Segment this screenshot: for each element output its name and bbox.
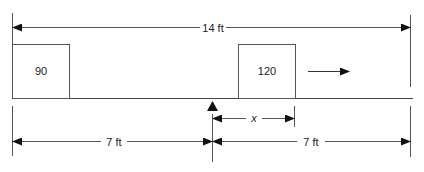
svg-text:120: 120: [258, 65, 276, 77]
left-half-dimension: 7 ft: [13, 136, 212, 148]
fulcrum-triangle-icon: [207, 101, 218, 111]
x-dimension: x: [213, 112, 294, 124]
mass-box-90: 90: [13, 45, 70, 99]
left-half-label: 7 ft: [106, 136, 121, 148]
total-length-label: 14 ft: [202, 22, 223, 34]
seesaw-diagram: 14 ft 90 120 x 7 ft 7 ft: [0, 0, 424, 172]
extension-lines: [13, 13, 411, 162]
right-half-label: 7 ft: [303, 136, 318, 148]
svg-text:90: 90: [35, 65, 47, 77]
right-half-dimension: 7 ft: [213, 136, 410, 148]
mass-box-120: 120: [239, 45, 296, 99]
total-length-dimension: 14 ft: [13, 22, 410, 34]
x-label: x: [250, 112, 257, 124]
